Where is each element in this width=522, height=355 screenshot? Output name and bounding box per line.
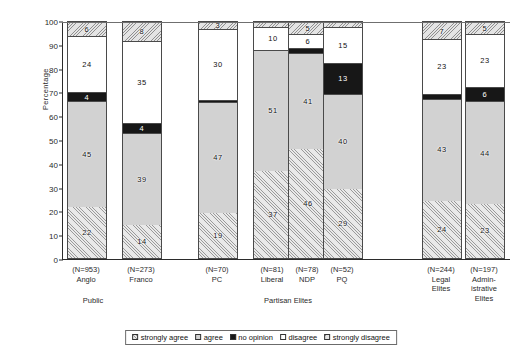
- bar-segment-disagree: 35: [123, 41, 161, 124]
- bar-segment-sdisagree: 6: [68, 22, 106, 36]
- bar-segment-sagree: 29: [324, 189, 362, 258]
- segment-value-label: 10: [268, 35, 278, 43]
- legend-swatch-agree-icon: [195, 334, 201, 340]
- segment-value-label: 30: [213, 61, 223, 69]
- stacked-bar: 4641265: [288, 21, 328, 259]
- segment-value-label: 24: [437, 226, 447, 234]
- y-tick-mark: [59, 260, 63, 261]
- bar-segment-sdisagree: 7: [423, 22, 461, 39]
- bar-segment-sagree: 37: [254, 171, 292, 258]
- chart-root: Percentage 0102030405060708090100 224542…: [0, 0, 522, 355]
- segment-value-label: 35: [137, 79, 147, 87]
- bar-segment-agree: 51: [254, 50, 292, 170]
- bar-segment-sagree: 46: [289, 149, 327, 258]
- legend-label: disagree: [288, 334, 317, 342]
- segment-value-label: 13: [338, 75, 348, 83]
- legend-swatch-noop-icon: [230, 334, 236, 340]
- bar-segment-disagree: 15: [324, 27, 362, 63]
- y-tick-mark: [59, 93, 63, 94]
- segment-value-label: 44: [480, 150, 490, 158]
- bar-segment-agree: 41: [289, 53, 327, 150]
- bar-segment-sagree: 23: [466, 204, 504, 258]
- bar-segment-disagree: 23: [423, 39, 461, 94]
- segment-value-label: 39: [137, 176, 147, 184]
- bar-segment-sdisagree: 3: [199, 22, 237, 29]
- bar-segment-noop: 13: [324, 63, 362, 94]
- segment-value-label: 47: [213, 154, 223, 162]
- bar-segment-sagree: 19: [199, 213, 237, 258]
- segment-value-label: 19: [213, 232, 223, 240]
- y-tick-mark: [59, 45, 63, 46]
- segment-value-label: 23: [437, 63, 447, 71]
- stacked-bar: 14394358: [122, 21, 162, 259]
- group-label: Partisan Elites: [238, 296, 338, 305]
- plot-top-rule: [62, 22, 510, 23]
- segment-value-label: 6: [85, 26, 90, 34]
- bar-segment-noop: 4: [123, 123, 161, 132]
- bar-segment-sdisagree: 2: [324, 22, 362, 27]
- segment-value-label: 46: [303, 200, 313, 208]
- segment-value-label: 6: [306, 38, 311, 46]
- legend-label: strongly disagree: [333, 334, 390, 342]
- legend-item: disagree: [280, 334, 317, 342]
- legend-item: strongly agree: [132, 334, 188, 342]
- y-tick-mark: [59, 69, 63, 70]
- segment-value-label: 4: [140, 125, 145, 133]
- segment-value-label: 51: [268, 107, 278, 115]
- bar-segment-sagree: 14: [123, 225, 161, 258]
- y-tick-mark: [59, 236, 63, 237]
- bar-segment-noop: 6: [466, 87, 504, 101]
- bar-segment-agree: 45: [68, 101, 106, 206]
- bar-segment-noop: 2: [423, 94, 461, 99]
- bar-segment-disagree: 10: [254, 27, 292, 51]
- legend-item: strongly disagree: [324, 334, 390, 342]
- bar-segment-sagree: 24: [423, 201, 461, 258]
- bar-segment-agree: 44: [466, 101, 504, 204]
- stacked-bar: 22454246: [67, 21, 107, 259]
- stacked-bar: 294013152: [323, 21, 363, 259]
- segment-value-label: 14: [137, 238, 147, 246]
- legend-label: no opinion: [238, 334, 273, 342]
- segment-value-label: 41: [303, 98, 313, 106]
- x-tick-label: (N=52) PQ: [310, 265, 374, 284]
- segment-value-label: 3: [216, 22, 221, 29]
- bar-segment-disagree: 23: [466, 34, 504, 88]
- bar-segment-sdisagree: 8: [123, 22, 161, 41]
- y-tick-mark: [59, 117, 63, 118]
- bar-segment-sdisagree: 5: [466, 22, 504, 34]
- group-label: Public: [43, 296, 143, 305]
- x-tick-label: (N=273) Franco: [109, 265, 173, 284]
- segment-value-label: 40: [338, 138, 348, 146]
- segment-value-label: 7: [440, 28, 445, 36]
- legend-swatch-sagree-icon: [132, 334, 138, 340]
- segment-value-label: 29: [338, 220, 348, 228]
- segment-value-label: 8: [140, 28, 145, 36]
- legend-swatch-disagree-icon: [280, 334, 286, 340]
- bar-segment-sdisagree: 5: [289, 22, 327, 34]
- plot-area: Percentage 0102030405060708090100 224542…: [62, 22, 510, 260]
- segment-value-label: 5: [483, 25, 488, 33]
- segment-value-label: 43: [437, 146, 447, 154]
- legend-item: no opinion: [230, 334, 273, 342]
- segment-value-label: 23: [480, 57, 490, 65]
- segment-value-label: 23: [480, 227, 490, 235]
- y-tick-mark: [59, 164, 63, 165]
- x-tick-label: (N=197) Admin- istrative Elites: [452, 265, 516, 303]
- bar-segment-agree: 47: [199, 102, 237, 213]
- segment-value-label: 4: [85, 94, 90, 102]
- bar-segment-sagree: 22: [68, 207, 106, 258]
- legend-swatch-sdisagree-icon: [324, 334, 330, 340]
- stacked-bar: 24432237: [422, 21, 462, 259]
- legend-label: agree: [204, 334, 223, 342]
- bar-segment-noop: 1: [199, 100, 237, 102]
- bar-segment-agree: 40: [324, 94, 362, 189]
- y-tick-mark: [59, 212, 63, 213]
- segment-value-label: 37: [268, 211, 278, 219]
- bar-segment-noop: 2: [289, 48, 327, 53]
- bar-segment-disagree: 24: [68, 36, 106, 92]
- bar-segment-disagree: 30: [199, 29, 237, 100]
- bar-segment-disagree: 6: [289, 34, 327, 48]
- segment-value-label: 45: [82, 151, 92, 159]
- stacked-bar: 23446235: [465, 21, 505, 259]
- chart-legend: strongly agreeagreeno opiniondisagreestr…: [125, 330, 397, 345]
